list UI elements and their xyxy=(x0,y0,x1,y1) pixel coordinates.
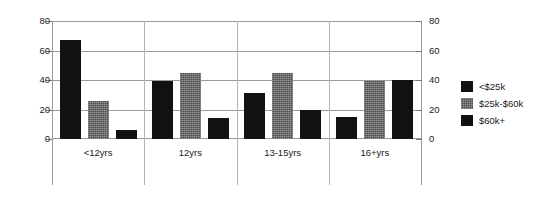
group-separator xyxy=(329,21,330,185)
legend-label: <$25k xyxy=(479,82,505,92)
x-axis-category-label: 16+yrs xyxy=(329,148,421,158)
bar xyxy=(244,93,265,139)
group-separator xyxy=(237,21,238,185)
legend-item[interactable]: $25k-$60k xyxy=(461,95,523,112)
y-axis-label-right: 0 xyxy=(429,134,469,144)
legend-swatch-icon xyxy=(461,81,473,92)
legend-swatch-icon xyxy=(461,115,473,126)
bar xyxy=(364,81,385,139)
legend-label: $60k+ xyxy=(479,116,505,126)
y-axis-label-left: 40 xyxy=(10,75,50,85)
bar xyxy=(88,101,109,139)
bar xyxy=(208,118,229,139)
y-axis-label-right: 60 xyxy=(429,46,469,56)
legend-label: $25k-$60k xyxy=(479,99,523,109)
bar-chart: <12yrs12yrs13-15yrs16+yrs002020404060608… xyxy=(0,0,536,203)
bar xyxy=(60,40,81,139)
y-axis-label-left: 20 xyxy=(10,105,50,115)
y-axis-tick-right xyxy=(416,51,422,52)
bar xyxy=(300,110,321,140)
bar xyxy=(116,130,137,139)
x-axis-category-label: <12yrs xyxy=(52,148,144,158)
y-axis-tick-right xyxy=(416,21,422,22)
bar xyxy=(152,81,173,139)
bar xyxy=(392,80,413,139)
bar xyxy=(180,73,201,139)
y-axis-right-line xyxy=(421,21,422,185)
x-axis-category-label: 12yrs xyxy=(144,148,236,158)
y-axis-tick-right xyxy=(416,139,422,140)
group-separator xyxy=(144,21,145,185)
chart-legend: <$25k $25k-$60k $60k+ xyxy=(461,78,523,129)
plot-area xyxy=(52,21,421,139)
x-axis-category-label: 13-15yrs xyxy=(237,148,329,158)
y-axis-label-left: 60 xyxy=(10,46,50,56)
bar xyxy=(272,73,293,139)
y-axis-label-left: 80 xyxy=(10,16,50,26)
bar xyxy=(336,117,357,139)
legend-swatch-icon xyxy=(461,98,473,109)
y-axis-tick-right xyxy=(416,110,422,111)
legend-item[interactable]: <$25k xyxy=(461,78,523,95)
y-axis-label-right: 80 xyxy=(429,16,469,26)
legend-item[interactable]: $60k+ xyxy=(461,112,523,129)
y-axis-label-left: 0 xyxy=(10,134,50,144)
y-axis-tick-right xyxy=(416,80,422,81)
